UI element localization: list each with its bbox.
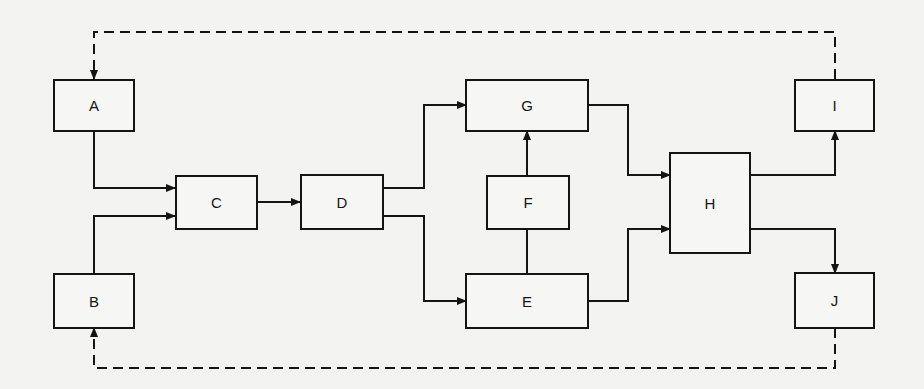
block-j: J: [794, 272, 875, 329]
block-b-label: B: [89, 293, 99, 310]
block-g-label: G: [521, 97, 533, 114]
edge-j-to-b-feedback: [94, 328, 835, 368]
edge-h-to-i: [750, 131, 835, 175]
edge-d-to-e: [383, 216, 466, 301]
block-h-label: H: [705, 195, 716, 212]
edge-h-to-j: [750, 229, 835, 273]
block-a-label: A: [89, 97, 99, 114]
edge-d-to-g: [383, 105, 466, 188]
block-d: D: [300, 174, 384, 230]
block-g: G: [465, 79, 589, 132]
edge-i-to-a-feedback: [94, 32, 835, 79]
block-b: B: [53, 273, 135, 329]
block-c-label: C: [211, 194, 222, 211]
block-h: H: [669, 152, 751, 254]
block-i-label: I: [832, 97, 836, 114]
block-d-label: D: [337, 194, 348, 211]
edge-g-to-h: [588, 105, 670, 175]
block-c: C: [175, 175, 258, 230]
block-f-label: F: [523, 194, 532, 211]
edge-e-to-h: [588, 229, 670, 301]
block-e-label: E: [522, 293, 532, 310]
block-a: A: [53, 79, 135, 132]
block-f: F: [486, 175, 570, 230]
block-i: I: [794, 79, 875, 132]
edge-a-to-c: [94, 131, 175, 188]
edge-b-to-c: [94, 216, 175, 273]
block-e: E: [465, 273, 589, 329]
block-j-label: J: [831, 292, 839, 309]
connector-layer: [0, 0, 924, 389]
